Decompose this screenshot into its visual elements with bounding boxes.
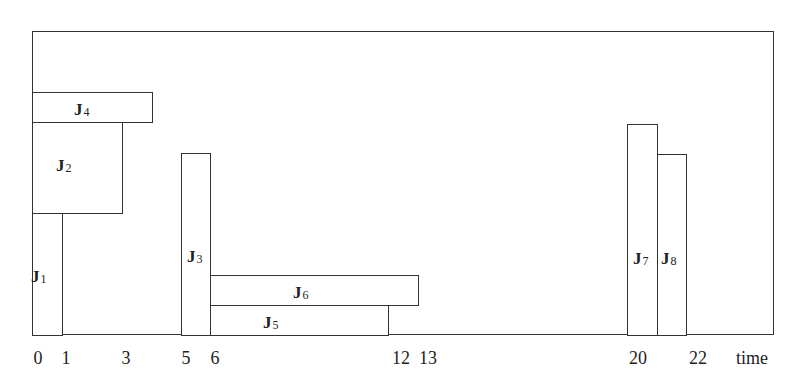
job-subscript: 8	[671, 254, 677, 268]
tick-1: 1	[62, 349, 71, 367]
job-subscript: 6	[303, 288, 309, 302]
job-box-j4	[32, 92, 153, 123]
tick-22: 22	[689, 349, 707, 367]
job-subscript: 4	[84, 105, 90, 119]
job-box-j7	[627, 124, 658, 336]
job-name: J	[56, 156, 65, 175]
job-label-j7: J7	[633, 250, 649, 267]
job-name: J	[187, 247, 196, 266]
job-name: J	[263, 313, 272, 332]
job-subscript: 3	[197, 252, 203, 266]
x-axis-title: time	[736, 349, 768, 367]
job-box-j8	[657, 154, 687, 336]
job-name: J	[661, 249, 670, 268]
tick-12: 12	[392, 349, 410, 367]
tick-20: 20	[629, 349, 647, 367]
job-label-j5: J5	[263, 314, 279, 331]
tick-3: 3	[122, 349, 131, 367]
job-label-j2: J2	[56, 157, 72, 174]
job-name: J	[293, 283, 302, 302]
job-box-j3	[181, 153, 211, 336]
job-name: J	[31, 267, 40, 286]
job-label-j6: J6	[293, 284, 309, 301]
tick-0: 0	[34, 349, 43, 367]
job-subscript: 7	[643, 254, 649, 268]
tick-13: 13	[419, 349, 437, 367]
job-label-j4: J4	[74, 101, 90, 118]
job-subscript: 2	[66, 161, 72, 175]
job-label-j1: J1	[31, 268, 47, 285]
job-name: J	[74, 100, 83, 119]
job-box-j2	[32, 122, 123, 214]
tick-5: 5	[182, 349, 191, 367]
job-label-j3: J3	[187, 248, 203, 265]
job-label-j8: J8	[661, 250, 677, 267]
job-subscript: 1	[41, 272, 47, 286]
job-box-j6	[210, 275, 419, 306]
job-subscript: 5	[273, 318, 279, 332]
job-box-j5	[210, 305, 389, 336]
tick-6: 6	[211, 349, 220, 367]
job-name: J	[633, 249, 642, 268]
